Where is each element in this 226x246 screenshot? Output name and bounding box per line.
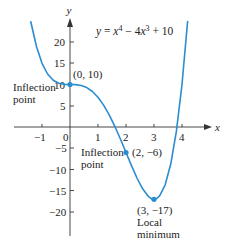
inflection-point-marker	[123, 150, 128, 155]
x-tick-label: −1	[34, 131, 46, 143]
equation-label: y = x4 − 4x3 + 10	[95, 24, 174, 38]
y-tick-label: −20	[49, 206, 67, 218]
y-tick-label: 20	[54, 36, 66, 48]
x-tick-label: 3	[151, 131, 157, 143]
y-tick-label: 15	[54, 57, 66, 69]
point-annotation: minimum	[137, 228, 180, 240]
point-annotation: point	[81, 158, 104, 170]
y-tick-label: −10	[49, 164, 67, 176]
x-axis-label: x	[214, 121, 220, 133]
y-tick-label: −15	[49, 185, 67, 197]
x-tick-label: 1	[95, 131, 101, 143]
point-annotation: Inflection	[81, 146, 124, 158]
x-tick-label: 2	[123, 131, 129, 143]
point-annotation: Inflection	[13, 81, 56, 93]
local-minimum-marker	[151, 197, 156, 202]
y-axis-arrow-icon	[67, 18, 73, 27]
x-axis-arrow-icon	[204, 124, 212, 130]
y-tick-label: −5	[55, 142, 67, 154]
point-label: (0, 10)	[73, 68, 103, 81]
inflection-point-marker	[67, 82, 72, 87]
point-annotation: point	[13, 93, 36, 105]
function-graph: x y −1 0 1 2 3 4 20 15 10 5 −5 −10 −15	[0, 0, 226, 246]
point-annotation: Local	[137, 216, 162, 228]
y-tick-label: 5	[60, 100, 66, 112]
y-axis-label: y	[66, 4, 72, 16]
x-tick-label: 4	[179, 131, 185, 143]
point-label: (2, −6)	[132, 146, 162, 159]
